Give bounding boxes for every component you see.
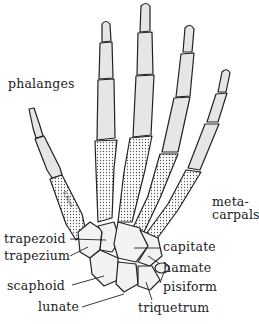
middle-finger-bones <box>118 4 154 223</box>
lunate-bone <box>116 262 138 292</box>
label-trapezoid: trapezoid <box>4 233 66 246</box>
label-metacarpals-line2: carpals <box>212 208 259 221</box>
scaphoid-bone <box>90 250 118 286</box>
label-triquetrum: triquetrum <box>138 302 209 315</box>
label-hamate: hamate <box>163 262 211 275</box>
hand-bones-illustration <box>0 0 259 324</box>
label-metacarpals: meta- carpals <box>212 195 259 221</box>
label-scaphoid: scaphoid <box>7 280 65 293</box>
label-trapezium: trapezium <box>4 250 70 263</box>
label-lunate: lunate <box>38 301 79 314</box>
hand-skeleton-diagram: phalanges meta- carpals trapezoid trapez… <box>0 0 259 324</box>
label-pisiform: pisiform <box>163 281 217 294</box>
label-phalanges: phalanges <box>8 78 75 91</box>
index-finger-bones <box>95 22 117 223</box>
thumb-bones <box>29 108 86 240</box>
label-capitate: capitate <box>163 241 216 254</box>
